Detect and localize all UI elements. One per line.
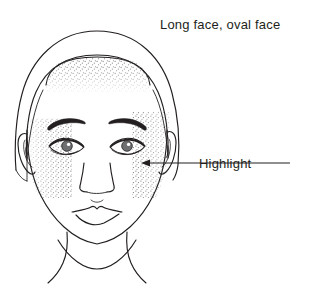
- figure-caption: Long face, oval face: [160, 17, 280, 32]
- face-diagram-canvas: Long face, oval face Highlight: [0, 0, 310, 296]
- nose: [80, 163, 114, 202]
- mouth: [72, 206, 122, 224]
- highlight-label: Highlight: [199, 156, 252, 171]
- neck: [48, 232, 146, 283]
- left-cheek-highlight-region: [22, 118, 72, 198]
- highlight-stipple-group: [22, 58, 180, 198]
- face-diagram-figure: Long face, oval face Highlight: [0, 0, 310, 296]
